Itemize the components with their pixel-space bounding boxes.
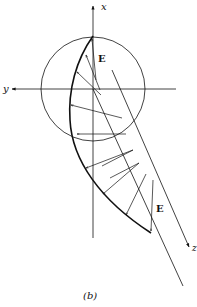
field-label-top: E [98,54,106,64]
figure-caption: (b) [83,291,97,301]
field-envelope-curve [70,36,151,233]
z-axis [112,70,189,247]
propagation-line [93,89,183,286]
y-axis-label: y [3,84,9,94]
field-label-bottom: E [156,204,164,214]
box-segments [102,150,139,178]
polarization-diagram [0,0,197,307]
x-axis-label: x [101,2,107,12]
z-axis-label: z [192,244,197,253]
